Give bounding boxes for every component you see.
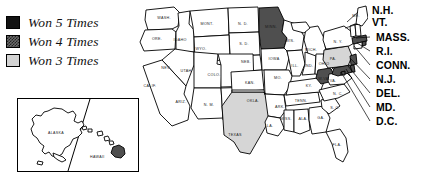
- callout-label-vt: VT.: [372, 16, 387, 28]
- state-label-neb: NEB.: [241, 60, 251, 64]
- state-label-texas: TEXAS: [228, 133, 242, 137]
- state-label-mo: MO.: [274, 76, 282, 80]
- state-label-fla: FLA.: [333, 143, 342, 147]
- state-label-ohio: OHIO: [319, 62, 330, 66]
- state-shape-nj: [350, 54, 357, 65]
- legend-label-won-4-times: Won 4 Times: [28, 34, 99, 50]
- callout-label-conn: CONN.: [376, 59, 410, 71]
- state-shape-hawaii: [82, 126, 125, 158]
- inset-label-alaska: ALASKA: [48, 131, 64, 135]
- state-label-wash: WASH.: [157, 16, 170, 20]
- state-label-minn: MINN.: [265, 25, 277, 29]
- state-label-ny: N. Y.: [333, 40, 342, 44]
- state-label-idaho: IDAHO: [173, 38, 186, 42]
- callout-label-nj: N.J.: [376, 73, 396, 85]
- legend-item-won-5-times: Won 5 Times: [6, 14, 126, 31]
- state-label-nev: NEV.: [161, 66, 170, 70]
- state-label-wva: W.VA.: [318, 77, 329, 81]
- state-label-wis: WIS.: [285, 39, 294, 43]
- state-label-nd: N. D.: [238, 22, 248, 26]
- state-label-calif: CALIF.: [144, 84, 157, 88]
- callout-label-ri: R.I.: [376, 45, 393, 57]
- state-label-ariz: ARIZ.: [176, 100, 187, 104]
- state-label-la: LA.: [267, 124, 273, 128]
- state-label-utah: UTAH: [181, 69, 192, 73]
- state-shape-nh: [355, 24, 361, 36]
- state-label-iowa: IOWA: [269, 57, 280, 61]
- state-label-miss: MISS.: [280, 117, 292, 121]
- alaska-hawaii-inset: ALASKA HAWAII: [17, 98, 139, 172]
- state-shape-miss: [284, 110, 294, 132]
- state-label-colo: COLO.: [208, 73, 221, 77]
- legend-label-won-3-times: Won 3 Times: [28, 53, 99, 69]
- state-label-ga: GA.: [317, 116, 324, 120]
- state-label-okla: OKLA.: [247, 99, 259, 103]
- state-label-kan: KAN.: [245, 81, 255, 85]
- state-shape-ri: [362, 41, 366, 46]
- state-shape-utah: [194, 52, 222, 88]
- state-label-wyo: WYO.: [195, 47, 206, 51]
- state-label-me: ME.: [352, 14, 359, 18]
- state-label-ark: ARK.: [275, 105, 285, 109]
- state-shape-dc: [341, 71, 345, 75]
- state-label-sc: S. C.: [330, 106, 340, 110]
- us-states-choropleth-figure: Won 5 Times Won 4 Times Won 3 Times: [0, 0, 422, 178]
- state-label-mont: MONT.: [201, 22, 214, 26]
- inset-map-svg: [18, 99, 138, 171]
- state-label-sd: S. D.: [239, 42, 249, 46]
- state-label-ill: ILL.: [291, 64, 298, 68]
- callout-label-del: DEL.: [376, 87, 400, 99]
- state-shape-alaska-islands: [37, 161, 43, 165]
- legend-item-won-3-times: Won 3 Times: [6, 52, 126, 69]
- callout-label-dc: D.C.: [376, 115, 397, 127]
- legend-swatch-won-3-times: [6, 54, 20, 67]
- state-label-ore: ORE.: [152, 37, 162, 41]
- state-label-ky: KY.: [306, 84, 312, 88]
- state-label-pa: PA.: [330, 57, 337, 61]
- state-label-ala: ALA.: [298, 117, 307, 121]
- state-label-ind: IND.: [305, 64, 314, 68]
- callout-label-nh: N.H.: [372, 4, 393, 16]
- us-map-svg: [128, 2, 368, 174]
- state-label-nc: N. C.: [333, 92, 343, 96]
- inset-label-hawaii: HAWAII: [90, 155, 105, 159]
- legend-label-won-5-times: Won 5 Times: [28, 15, 99, 31]
- state-label-nm: N. M.: [204, 103, 214, 107]
- state-shape-nd: [228, 7, 259, 33]
- state-shape-ala: [294, 109, 310, 134]
- us-map: WASH.ORE.IDAHOMONT.N. D.S. D.MINN.WYO.NE…: [128, 2, 368, 174]
- legend-item-won-4-times: Won 4 Times: [6, 33, 126, 50]
- callout-label-md: MD.: [376, 101, 396, 113]
- callout-label-mass: MASS.: [376, 31, 410, 43]
- legend-swatch-won-4-times: [6, 35, 20, 48]
- state-label-mich: MICH.: [305, 48, 317, 52]
- legend: Won 5 Times Won 4 Times Won 3 Times: [6, 14, 126, 71]
- state-label-tenn: TENN.: [295, 99, 308, 103]
- state-label-va: VA.: [330, 79, 337, 83]
- legend-swatch-won-5-times: [6, 16, 20, 29]
